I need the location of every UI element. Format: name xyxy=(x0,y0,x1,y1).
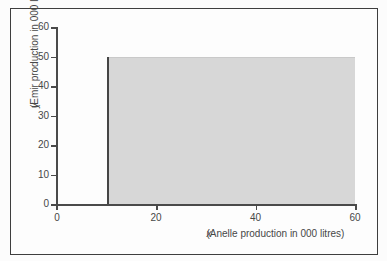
y-tick-10 xyxy=(51,175,56,177)
y-tick-30 xyxy=(51,116,56,118)
y-tick-20 xyxy=(51,145,56,147)
y-tick-50 xyxy=(51,57,56,59)
x-tick-label-20: 20 xyxy=(141,212,171,224)
x-tick-40 xyxy=(256,206,258,211)
x-tick-0 xyxy=(56,206,58,211)
feasible-region-shading xyxy=(107,57,356,205)
x-tick-label-60: 60 xyxy=(340,212,370,224)
x-axis-line xyxy=(56,204,357,206)
y-axis-title-text: (Emir production in 000 litres) xyxy=(29,0,41,108)
y-tick-40 xyxy=(51,86,56,88)
y-axis-line xyxy=(56,27,58,210)
y-tick-label-0: 0 xyxy=(23,198,49,210)
x-axis-title-text: (Anelle production in 000 litres) xyxy=(207,228,345,240)
x-tick-60 xyxy=(355,206,357,211)
y-tick-60 xyxy=(51,27,56,29)
constraint-boundary-line-x10 xyxy=(107,57,109,204)
chart-frame: 60 50 40 30 20 10 0 0 20 40 60 x(Anelle … xyxy=(10,8,378,255)
y-tick-label-20: 20 xyxy=(23,139,49,151)
y-tick-label-30: 30 xyxy=(23,110,49,122)
x-tick-label-0: 0 xyxy=(42,212,72,224)
x-tick-20 xyxy=(156,206,158,211)
x-tick-label-40: 40 xyxy=(241,212,271,224)
y-tick-label-10: 10 xyxy=(23,169,49,181)
